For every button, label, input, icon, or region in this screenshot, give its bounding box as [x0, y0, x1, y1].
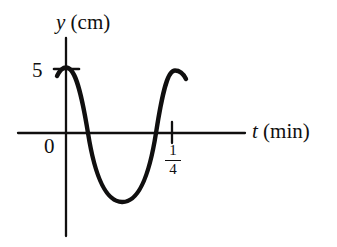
sinusoid-figure: y (cm) t (min) 5 0 1 4	[0, 0, 337, 247]
y-tick-5-label: 5	[32, 60, 43, 81]
t-axis-label: t (min)	[252, 121, 310, 142]
y-axis-variable: y	[56, 10, 65, 34]
y-axis-label: y (cm)	[56, 12, 110, 33]
origin-label: 0	[44, 136, 55, 157]
fraction-numerator: 1	[165, 143, 181, 159]
t-axis-units: (min)	[263, 119, 310, 143]
sinusoid-curve	[57, 68, 186, 203]
t-tick-quarter-label: 1 4	[165, 143, 181, 178]
fraction-denominator: 4	[165, 162, 181, 178]
y-axis-units: (cm)	[71, 10, 111, 34]
